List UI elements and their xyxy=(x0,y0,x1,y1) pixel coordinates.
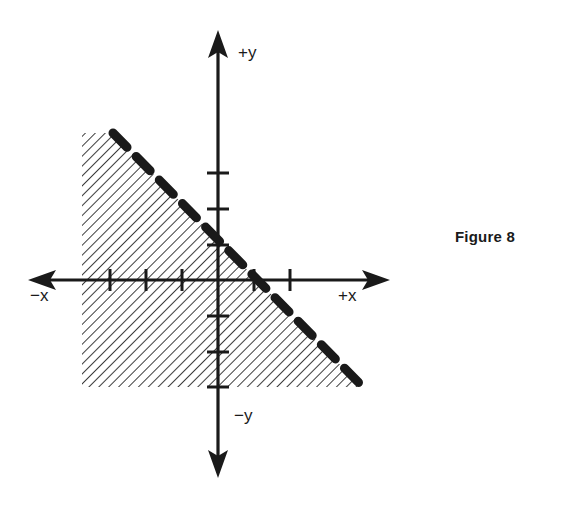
x-positive-axis-label: +x xyxy=(338,286,357,305)
figure-container: +y −y +x −x Figure 8 xyxy=(0,0,562,509)
y-positive-axis-label: +y xyxy=(238,43,257,62)
x-negative-axis-label: −x xyxy=(30,286,49,305)
y-negative-axis-label: −y xyxy=(234,406,253,425)
coordinate-plane-graph: +y −y +x −x xyxy=(0,0,562,509)
figure-caption: Figure 8 xyxy=(455,228,515,245)
